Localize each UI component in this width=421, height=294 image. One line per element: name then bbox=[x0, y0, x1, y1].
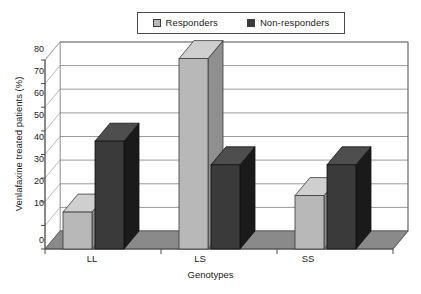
bar-chart-figure: Responders Non-responders Venlafaxine tr… bbox=[0, 0, 421, 294]
bar-ls-responders-front bbox=[179, 59, 208, 249]
bar-ll-nonresponders-front bbox=[95, 141, 124, 249]
bar-ss-nonresponders[interactable] bbox=[327, 147, 371, 249]
bar-ss-nonresponders-front bbox=[327, 165, 356, 249]
bar-ll-nonresponders[interactable] bbox=[95, 123, 139, 249]
plot-area bbox=[0, 0, 421, 294]
x-axis-ticks bbox=[45, 249, 393, 254]
bar-ll-responders-front bbox=[63, 212, 92, 249]
plot-3d-scene bbox=[41, 41, 408, 254]
bar-ll-nonresponders-side bbox=[124, 123, 139, 249]
bar-ls-nonresponders[interactable] bbox=[211, 147, 255, 249]
y-axis-ticks bbox=[41, 60, 45, 249]
bar-ls-nonresponders-front bbox=[211, 165, 240, 249]
bar-ss-responders-front bbox=[295, 196, 324, 249]
